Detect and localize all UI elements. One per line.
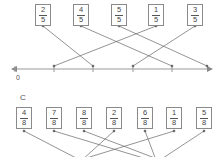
denominator: 8: [172, 119, 176, 127]
arrow-left-icon: [11, 66, 17, 72]
fraction-card: 18: [166, 107, 182, 129]
numerator: 1: [172, 109, 176, 117]
section-c-label: C: [20, 93, 26, 102]
denominator: 5: [154, 16, 158, 24]
numerator: 8: [82, 109, 86, 117]
fraction-card: 55: [111, 4, 127, 26]
denominator: 5: [193, 16, 197, 24]
fraction-card: 68: [137, 107, 153, 129]
fraction-card: 58: [196, 107, 212, 129]
denominator: 8: [143, 119, 147, 127]
denominator: 5: [117, 16, 121, 24]
fraction-card: 88: [76, 107, 92, 129]
numerator: 3: [193, 6, 197, 14]
numerator: 4: [22, 109, 26, 117]
numerator: 2: [41, 6, 45, 14]
numerator: 5: [202, 109, 206, 117]
fraction-card: 78: [46, 107, 62, 129]
numerator: 4: [79, 6, 83, 14]
denominator: 8: [112, 119, 116, 127]
denominator: 5: [41, 16, 45, 24]
diagram-lines: [0, 0, 214, 157]
fraction-card: 28: [106, 107, 122, 129]
denominator: 8: [202, 119, 206, 127]
fraction-card: 25: [35, 4, 51, 26]
numerator: 7: [52, 109, 56, 117]
numerator: 2: [112, 109, 116, 117]
fraction-card: 15: [148, 4, 164, 26]
axis-zero-label: 0: [16, 74, 20, 81]
numerator: 6: [143, 109, 147, 117]
fraction-card: 48: [16, 107, 32, 129]
denominator: 5: [79, 16, 83, 24]
numerator: 5: [117, 6, 121, 14]
fraction-card: 45: [73, 4, 89, 26]
numerator: 1: [154, 6, 158, 14]
fraction-card: 35: [187, 4, 203, 26]
denominator: 8: [22, 119, 26, 127]
denominator: 8: [82, 119, 86, 127]
denominator: 8: [52, 119, 56, 127]
